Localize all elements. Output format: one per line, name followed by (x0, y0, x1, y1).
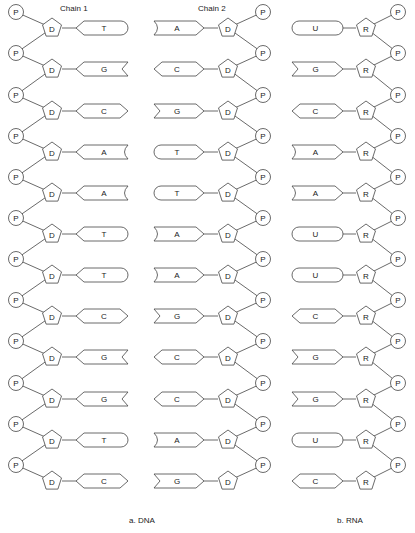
base-C: C (292, 474, 343, 488)
sugar-d: D (219, 430, 238, 448)
base-G: G (292, 392, 343, 406)
phosphate-group: P (9, 88, 24, 103)
base-label: A (174, 24, 180, 33)
phosphate-label: P (13, 132, 18, 141)
sugar-d: D (219, 265, 238, 283)
sugar-label: D (49, 190, 55, 199)
base-label: C (174, 395, 180, 404)
sugar-label: D (225, 354, 231, 363)
phosphate-label: P (395, 337, 400, 346)
base-label: A (313, 189, 319, 198)
base-T: T (154, 145, 204, 159)
phosphate-label: P (260, 255, 265, 264)
phosphate-label: P (260, 173, 265, 182)
base-label: G (101, 395, 107, 404)
phosphate-label: P (395, 8, 400, 17)
phosphate-label: P (260, 132, 265, 141)
base-C: C (292, 104, 343, 118)
phosphate-label: P (260, 296, 265, 305)
base-A: A (154, 433, 204, 447)
phosphate-label: P (13, 296, 18, 305)
rna-caption: b. RNA (337, 516, 363, 525)
sugar-d: D (43, 224, 62, 242)
phosphate-group: P (9, 334, 24, 349)
phosphate-label: P (260, 461, 265, 470)
sugar-d: D (219, 101, 238, 119)
phosphate-group: P (391, 334, 406, 349)
phosphate-group: P (256, 293, 271, 308)
phosphate-label: P (260, 420, 265, 429)
sugar-label: D (225, 25, 231, 34)
sugar-d: D (219, 306, 238, 324)
base-label: G (312, 353, 318, 362)
base-label: G (174, 107, 180, 116)
sugar-label: D (225, 437, 231, 446)
sugar-label: D (225, 66, 231, 75)
sugar-label: D (49, 108, 55, 117)
base-T: T (76, 433, 128, 447)
sugar-d: D (43, 101, 62, 119)
base-label: U (313, 271, 319, 280)
base-label: T (102, 24, 107, 33)
base-T: T (76, 268, 128, 282)
base-label: T (175, 148, 180, 157)
sugar-label: D (49, 437, 55, 446)
sugar-label: D (49, 396, 55, 405)
base-G: G (292, 350, 343, 364)
chain1-heading: Chain 1 (60, 4, 88, 13)
base-T: T (76, 227, 128, 241)
base-U: U (292, 21, 343, 35)
rna-strand: PRUPRGPRCPRAPRAPRUPRUPRCPRGPRGPRUPRC (292, 5, 406, 490)
phosphate-group: P (9, 417, 24, 432)
base-C: C (292, 309, 343, 323)
base-label: A (174, 436, 180, 445)
sugar-label: R (363, 25, 369, 34)
sugar-d: D (219, 183, 238, 201)
phosphate-group: P (256, 211, 271, 226)
phosphate-group: P (9, 211, 24, 226)
phosphate-label: P (13, 214, 18, 223)
phosphate-group: P (391, 129, 406, 144)
phosphate-label: P (13, 379, 18, 388)
sugar-d: D (43, 471, 62, 489)
phosphate-label: P (13, 91, 18, 100)
sugar-label: D (225, 149, 231, 158)
base-label: C (101, 312, 107, 321)
sugar-r: R (357, 471, 376, 489)
sugar-label: D (49, 313, 55, 322)
sugar-r: R (357, 142, 376, 160)
sugar-d: D (43, 142, 62, 160)
base-G: G (154, 309, 204, 323)
sugar-label: D (49, 66, 55, 75)
phosphate-group: P (391, 88, 406, 103)
sugar-d: D (219, 59, 238, 77)
phosphate-group: P (391, 5, 406, 20)
base-G: G (76, 350, 128, 364)
base-label: C (313, 107, 319, 116)
sugar-r: R (357, 59, 376, 77)
phosphate-label: P (395, 91, 400, 100)
base-C: C (154, 62, 204, 76)
base-C: C (76, 309, 128, 323)
phosphate-group: P (391, 376, 406, 391)
phosphate-group: P (391, 46, 406, 61)
phosphate-label: P (13, 337, 18, 346)
phosphate-label: P (260, 8, 265, 17)
base-G: G (76, 62, 128, 76)
sugar-label: D (49, 272, 55, 281)
sugar-label: D (225, 108, 231, 117)
phosphate-label: P (395, 132, 400, 141)
base-G: G (76, 392, 128, 406)
base-label: T (102, 436, 107, 445)
phosphate-label: P (395, 420, 400, 429)
base-C: C (154, 392, 204, 406)
sugar-label: D (225, 478, 231, 487)
phosphate-group: P (256, 5, 271, 20)
base-label: A (313, 148, 319, 157)
phosphate-group: P (391, 170, 406, 185)
base-label: G (101, 65, 107, 74)
sugar-r: R (357, 306, 376, 324)
sugar-d: D (43, 347, 62, 365)
base-label: C (101, 107, 107, 116)
phosphate-group: P (391, 211, 406, 226)
